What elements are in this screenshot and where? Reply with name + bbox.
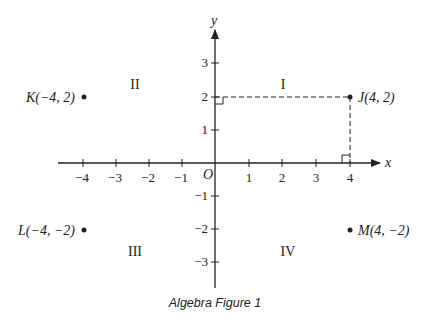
x-tick-label: −4	[75, 170, 89, 185]
quadrant-label-II: II	[130, 77, 140, 92]
y-axis-label: y	[209, 13, 218, 28]
coordinate-plane: −4 −3 −2 −1 1 2 3 4 3 2 1 −1 −2 −3 x y O…	[0, 0, 429, 322]
origin-label: O	[203, 167, 213, 182]
y-tick-label: 3	[202, 55, 209, 70]
x-axis-label: x	[384, 155, 392, 170]
point-label-M: M(4, −2)	[357, 223, 410, 239]
x-tick-label: −2	[141, 170, 155, 185]
point-K	[82, 95, 87, 100]
point-J	[348, 95, 353, 100]
x-tick-label: 1	[246, 170, 253, 185]
x-tick-label: −3	[108, 170, 122, 185]
figure-caption: Algebra Figure 1	[168, 296, 261, 310]
point-label-L: L(−4, −2)	[17, 223, 75, 239]
quadrant-label-III: III	[128, 244, 142, 259]
y-tick-label: 2	[202, 89, 209, 104]
x-tick-label: 3	[313, 170, 320, 185]
quadrant-label-I: I	[281, 77, 286, 92]
y-tick-label: −3	[194, 254, 208, 269]
point-M	[348, 228, 353, 233]
right-angle-marker-x	[342, 155, 350, 163]
y-tick-label: 1	[202, 122, 209, 137]
y-tick-label: −2	[194, 221, 208, 236]
x-tick-label: 2	[279, 170, 286, 185]
right-angle-marker-y	[215, 97, 223, 104]
x-tick-label: 4	[347, 170, 354, 185]
x-tick-label: −1	[174, 170, 188, 185]
y-tick-label: −1	[194, 188, 208, 203]
point-L	[82, 228, 87, 233]
point-label-J: J(4, 2)	[358, 90, 395, 106]
point-label-K: K(−4, 2)	[25, 90, 75, 106]
quadrant-label-IV: IV	[281, 244, 296, 259]
